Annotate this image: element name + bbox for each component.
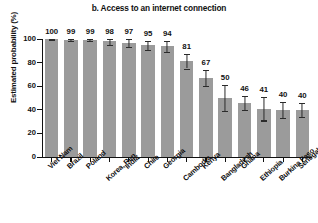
x-axis-category-label: Kenya xyxy=(200,150,222,171)
x-axis-category-label: Chile xyxy=(142,153,161,171)
x-axis-category-label: Georgia xyxy=(161,146,187,170)
x-tick-mark xyxy=(225,158,226,162)
x-tick-mark xyxy=(283,158,284,162)
x-tick-mark xyxy=(109,158,110,162)
x-tick-mark xyxy=(186,158,187,162)
x-tick-mark xyxy=(263,158,264,162)
bar-chart-panel: b. Access to an internet connection Esti… xyxy=(0,0,318,223)
x-axis-labels: Viet NamBrazilPolandKorea, Rep.IndiaChil… xyxy=(0,0,318,223)
x-axis-category-label: Poland xyxy=(84,148,107,170)
